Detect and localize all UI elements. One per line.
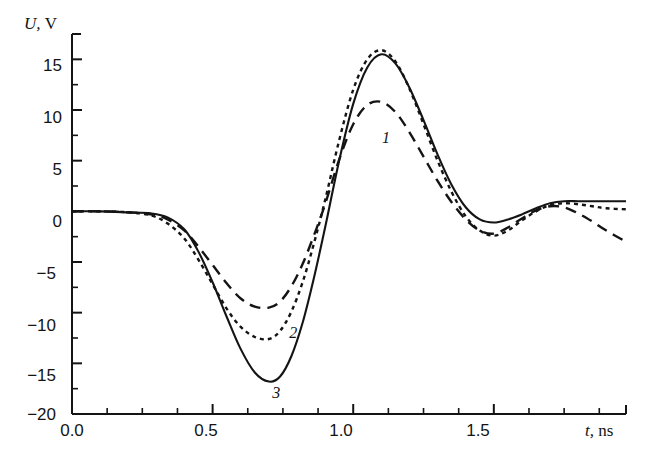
x-tick-label: 1.5 (452, 421, 504, 441)
x-tick-label: 1.0 (315, 421, 367, 441)
x-axis-label-unit: ns (598, 421, 613, 440)
y-tick-label: −15 (10, 366, 56, 386)
x-tick-label: 0.5 (180, 421, 232, 441)
chart-figure: U, V t, ns 15 10 5 0 −5 −10 −15 −20 0.0 … (0, 0, 653, 466)
data-curves (72, 50, 626, 382)
curve-label-3: 3 (272, 384, 280, 402)
y-axis-label: U, V (24, 14, 57, 34)
x-axis-label-symbol: t, (585, 421, 594, 440)
y-tick-label: −10 (10, 316, 56, 336)
y-tick-label: 5 (16, 160, 62, 180)
plot-canvas (0, 0, 653, 466)
x-tick-label: 0.0 (46, 421, 98, 441)
y-axis-label-unit: V (45, 14, 57, 33)
curve-2 (72, 50, 626, 339)
axis-lines (72, 34, 626, 414)
curve-label-1: 1 (382, 129, 390, 147)
y-axis-label-symbol: U, (24, 14, 41, 33)
y-tick-label: 0 (16, 212, 62, 232)
x-axis-label: t, ns (585, 421, 613, 441)
curve-label-2: 2 (289, 324, 297, 342)
tick-marks (72, 34, 599, 414)
y-tick-label: 15 (16, 56, 62, 76)
y-tick-label: −5 (10, 264, 56, 284)
y-tick-label: 10 (16, 108, 62, 128)
